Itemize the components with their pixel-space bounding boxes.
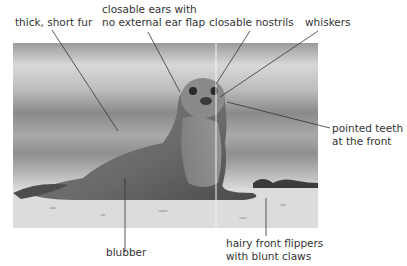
label-fur-line-1: thick, short fur: [15, 16, 92, 29]
label-teeth: pointed teeth at the front: [332, 122, 403, 148]
label-teeth-line-1: pointed teeth: [332, 122, 403, 135]
label-flippers-line-1: hairy front flippers: [226, 237, 323, 250]
label-flippers: hairy front flippers with blunt claws: [226, 237, 323, 263]
label-ears: closable ears with no external ear flap: [102, 3, 205, 29]
seal-photo-illustration: [13, 43, 318, 228]
label-whiskers: whiskers: [305, 16, 351, 29]
label-flippers-line-2: with blunt claws: [226, 250, 323, 263]
label-fur: thick, short fur: [15, 16, 92, 29]
seal-photo: [13, 43, 318, 228]
label-ears-line-1: closable ears with: [102, 3, 205, 16]
label-whiskers-line-1: whiskers: [305, 16, 351, 29]
label-ears-line-2: no external ear flap: [102, 16, 205, 29]
label-blubber-line-1: blubber: [106, 246, 146, 259]
label-blubber: blubber: [106, 246, 146, 259]
label-nostrils-line-1: closable nostrils: [209, 16, 294, 29]
label-teeth-line-2: at the front: [332, 135, 403, 148]
label-nostrils: closable nostrils: [209, 16, 294, 29]
